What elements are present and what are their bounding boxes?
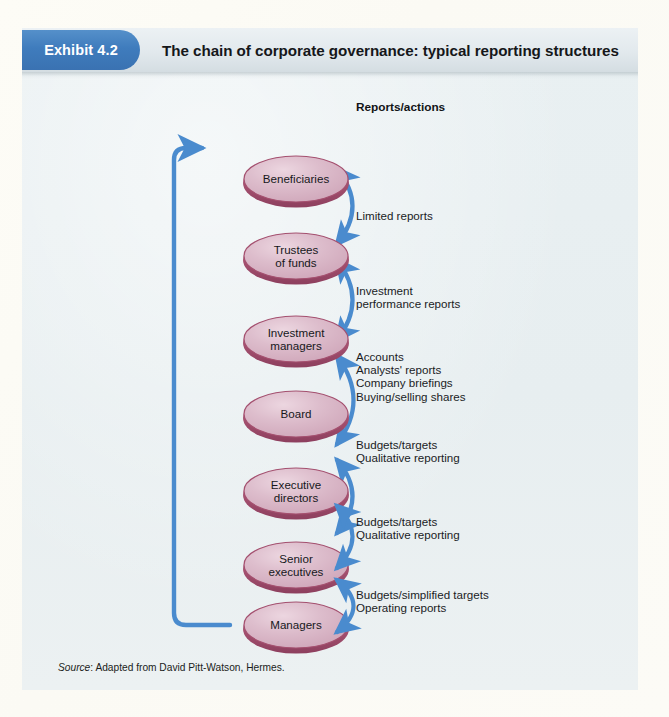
exhibit-title: The chain of corporate governance: typic… <box>162 30 619 70</box>
report-line: Limited reports <box>356 209 433 222</box>
report-line: Qualitative reporting <box>356 528 460 541</box>
report-line: Analysts' reports <box>356 363 466 376</box>
node-senior-executives <box>243 542 349 594</box>
report-label-budgets-qualitative-1: Budgets/targets Qualitative reporting <box>356 438 460 464</box>
node-executive-directors <box>243 468 349 520</box>
report-label-accounts-group: Accounts Analysts' reports Company brief… <box>356 350 466 403</box>
source-prefix: Source <box>58 662 90 673</box>
node-beneficiaries <box>243 156 349 208</box>
source-caption: Source: Adapted from David Pitt-Watson, … <box>58 662 285 673</box>
node-investment-managers <box>243 316 349 368</box>
header-drop-shadow <box>22 72 638 79</box>
reports-actions-heading: Reports/actions <box>356 100 445 114</box>
report-line: Budgets/simplified targets <box>356 588 489 601</box>
report-line: Qualitative reporting <box>356 451 460 464</box>
governance-chain-diagram <box>22 28 638 690</box>
report-line: Operating reports <box>356 601 489 614</box>
report-label-limited-reports: Limited reports <box>356 209 433 222</box>
node-managers <box>243 602 349 654</box>
report-line: Investment <box>356 284 460 297</box>
report-label-budgets-simplified: Budgets/simplified targets Operating rep… <box>356 588 489 614</box>
page-background: Exhibit 4.2 The chain of corporate gover… <box>0 0 669 717</box>
report-line: Budgets/targets <box>356 515 460 528</box>
feedback-loop-arrow <box>174 148 230 625</box>
report-line: performance reports <box>356 297 460 310</box>
exhibit-panel: Exhibit 4.2 The chain of corporate gover… <box>22 28 638 690</box>
source-text: : Adapted from David Pitt-Watson, Hermes… <box>90 662 284 673</box>
report-label-investment-performance: Investment performance reports <box>356 284 460 310</box>
exhibit-number-badge: Exhibit 4.2 <box>22 30 140 70</box>
node-trustees <box>243 233 349 285</box>
report-line: Budgets/targets <box>356 438 460 451</box>
report-line: Buying/selling shares <box>356 390 466 403</box>
report-line: Company briefings <box>356 376 466 389</box>
report-label-budgets-qualitative-2: Budgets/targets Qualitative reporting <box>356 515 460 541</box>
node-board <box>243 391 349 443</box>
report-line: Accounts <box>356 350 466 363</box>
